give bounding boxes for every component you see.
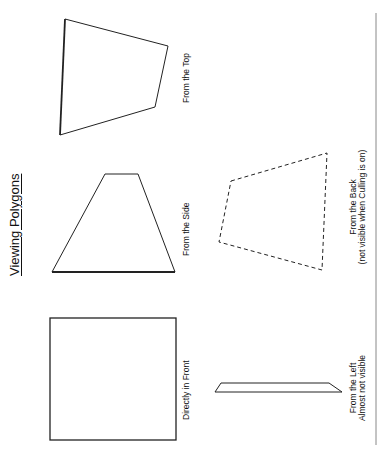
- page-title: Viewing Polygons: [10, 174, 19, 276]
- polygon-from-side: [52, 174, 175, 272]
- polygon-from-back: [219, 153, 327, 270]
- label-from-left: From the Left Almost not visible: [349, 350, 367, 426]
- label-from-left-note: Almost not visible: [358, 350, 367, 426]
- label-from-top: From the Top: [182, 53, 191, 103]
- polygon-from-top: [60, 19, 168, 135]
- polygon-from-left: [215, 383, 342, 392]
- polygon-directly-in-front: [50, 318, 176, 440]
- label-from-back: From the Back (not visible when Culling …: [349, 138, 367, 276]
- label-directly-in-front: Directly in Front: [182, 360, 191, 420]
- label-from-back-note: (not visible when Culling is on): [358, 138, 367, 276]
- label-from-side: From the Side: [182, 203, 191, 256]
